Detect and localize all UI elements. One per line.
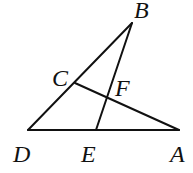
label-E: E [80,141,96,167]
geometry-diagram: B C F D E A [0,0,193,173]
label-A: A [168,141,185,167]
label-D: D [12,141,30,167]
point-labels: B C F D E A [12,0,185,167]
label-F: F [114,75,130,101]
label-B: B [134,0,149,23]
segments [28,23,179,130]
label-C: C [52,65,69,91]
